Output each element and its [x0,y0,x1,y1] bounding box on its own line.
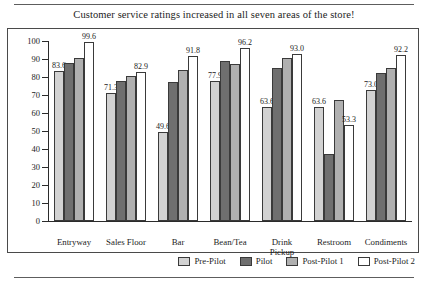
bar-pilot [168,82,178,221]
legend-label: Pilot [256,256,273,266]
bar-group: 63.693.0 [259,41,305,221]
legend-label: Post-Pilot 1 [302,256,343,266]
bar-post-pilot-2: 99.6 [84,42,94,221]
x-axis-category-label: Drink Pickup [256,237,308,257]
y-axis-tick [42,77,48,78]
y-axis-tick-label: 20 [10,180,40,190]
y-axis-tick-label: 30 [10,162,40,172]
legend-swatch [240,257,252,266]
chart-figure: Customer service ratings increased in al… [0,0,428,289]
bar-pilot [272,68,282,221]
y-axis-tick [42,59,48,60]
bar-pre-pilot: 63.6 [262,107,272,221]
bar-value-label: 82.9 [134,62,148,71]
bar-value-label: 91.8 [186,46,200,55]
bar-pilot [324,154,334,221]
bar-value-label: 63.6 [312,97,326,106]
bar-post-pilot-1 [230,64,240,221]
legend-item[interactable]: Pilot [240,256,273,266]
bar-value-label: 92.2 [394,45,408,54]
bar-pilot [376,73,386,221]
legend-label: Post-Pilot 2 [374,256,415,266]
y-axis-tick [42,221,48,222]
x-axis-category-label: Restroom [308,237,360,247]
bar-post-pilot-1 [282,58,292,221]
x-axis-category-label: Sales Floor [100,237,152,247]
bar-post-pilot-2: 96.2 [240,48,250,221]
bar-post-pilot-1 [126,76,136,221]
y-axis-tick-label: 60 [10,108,40,118]
y-axis-tick-label: 40 [10,144,40,154]
x-axis-line [48,221,412,222]
y-axis-tick-label: 90 [10,54,40,64]
bar-post-pilot-2: 93.0 [292,54,302,221]
legend-item[interactable]: Pre-Pilot [178,256,225,266]
x-axis-category-label: Bean/Tea [204,237,256,247]
bar-post-pilot-2: 82.9 [136,72,146,221]
bar-group: 63.653.3 [311,41,357,221]
bar-group: 77.996.2 [207,41,253,221]
y-axis-tick [42,131,48,132]
y-axis-tick [42,149,48,150]
bar-post-pilot-2: 53.3 [344,125,354,221]
legend-swatch [178,257,190,266]
y-axis-tick-label: 70 [10,90,40,100]
bar-group: 83.699.6 [51,41,97,221]
y-axis-tick-label: 50 [10,126,40,136]
bar-pilot [220,61,230,221]
bar-pilot [116,81,126,221]
y-axis-tick [42,185,48,186]
x-axis-category-label: Entryway [48,237,100,247]
bar-post-pilot-2: 92.2 [396,55,406,221]
y-axis-tick [42,95,48,96]
y-axis-tick-label: 100 [10,36,40,46]
bar-post-pilot-1 [178,70,188,221]
y-axis-labels: 0102030405060708090100 [8,29,40,252]
top-divider-rule [14,4,414,5]
bar-pilot [64,63,74,221]
chart-legend: Pre-PilotPilotPost-Pilot 1Post-Pilot 2 [7,256,419,266]
plot-area: 83.699.6Entryway71.382.9Sales Floor49.69… [48,41,412,221]
bottom-divider-rule [14,277,414,278]
y-axis-tick-label: 0 [10,216,40,226]
x-axis-category-label: Bar [152,237,204,247]
legend-label: Pre-Pilot [194,256,225,266]
bar-value-label: 93.0 [290,44,304,53]
bar-pre-pilot: 77.9 [210,81,220,221]
bar-value-label: 53.3 [342,115,356,124]
legend-swatch [358,257,370,266]
y-axis-tick-label: 80 [10,72,40,82]
y-axis-tick [42,167,48,168]
bar-pre-pilot: 83.6 [54,71,64,221]
plot-frame: 0102030405060708090100 83.699.6Entryway7… [7,28,419,253]
y-axis-tick [42,41,48,42]
bar-group: 73.092.2 [363,41,409,221]
bar-post-pilot-1 [386,68,396,221]
chart-title: Customer service ratings increased in al… [0,9,428,20]
legend-swatch [286,257,298,266]
bar-pre-pilot: 63.6 [314,107,324,221]
x-axis-category-label: Condiments [360,237,412,247]
bar-value-label: 96.2 [238,38,252,47]
y-axis-tick [42,203,48,204]
bar-pre-pilot: 71.3 [106,93,116,221]
y-axis-tick [42,113,48,114]
legend-item[interactable]: Post-Pilot 1 [286,256,343,266]
bar-post-pilot-1 [74,58,84,221]
bar-value-label: 99.6 [82,32,96,41]
bar-pre-pilot: 73.0 [366,90,376,221]
bar-group: 71.382.9 [103,41,149,221]
bar-pre-pilot: 49.6 [158,132,168,221]
legend-item[interactable]: Post-Pilot 2 [358,256,415,266]
bar-group: 49.691.8 [155,41,201,221]
y-axis-tick-label: 10 [10,198,40,208]
bar-post-pilot-2: 91.8 [188,56,198,221]
